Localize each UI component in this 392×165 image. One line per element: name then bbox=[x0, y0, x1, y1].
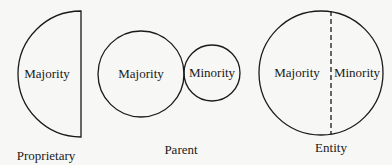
majority-label: Majority bbox=[274, 65, 320, 80]
parent-caption: Parent bbox=[164, 142, 198, 157]
proprietary-diagram: Majority Proprietary bbox=[17, 11, 81, 163]
proprietary-caption: Proprietary bbox=[17, 148, 76, 163]
parent-diagram: Majority Minority Parent bbox=[98, 31, 240, 157]
entity-diagram: Majority Minority Entity bbox=[259, 11, 383, 155]
majority-label: Majority bbox=[118, 66, 164, 81]
consolidation-diagrams: Majority Proprietary Majority Minority P… bbox=[0, 0, 392, 165]
minority-label: Minority bbox=[334, 65, 381, 80]
entity-caption: Entity bbox=[315, 140, 347, 155]
minority-label: Minority bbox=[189, 65, 236, 80]
majority-label: Majority bbox=[24, 66, 70, 81]
